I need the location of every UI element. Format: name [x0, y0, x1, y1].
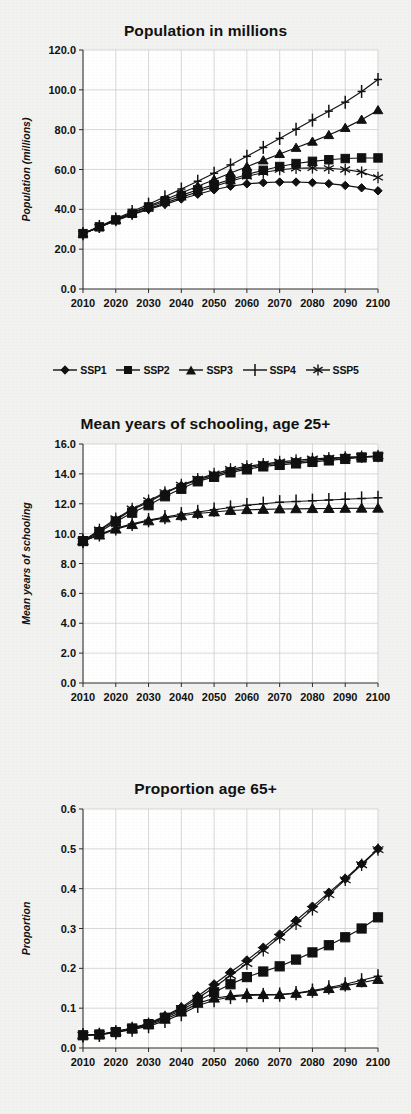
square-marker [242, 972, 251, 981]
chart-title-population: Population in millions [0, 22, 411, 40]
x-axis-tick-label: 2060 [235, 691, 259, 703]
y-axis-tick-label: 6.0 [61, 587, 76, 599]
square-marker [341, 933, 350, 942]
y-axis-title: Population (millions) [20, 117, 32, 221]
y-axis-tick-label: 0.4 [61, 883, 77, 895]
triangle-marker-icon [178, 363, 204, 377]
x-axis-tick-label: 2100 [366, 1056, 390, 1068]
square-marker-icon [115, 363, 141, 377]
y-axis-tick-label: 0.1 [61, 1002, 76, 1014]
x-axis-tick-label: 2050 [202, 297, 226, 309]
x-axis-tick-label: 2100 [366, 691, 390, 703]
x-axis-tick-label: 2040 [169, 297, 193, 309]
y-axis-tick-label: 8.0 [61, 558, 76, 570]
legend-item-ssp2[interactable]: SSP2 [115, 363, 169, 377]
y-axis-tick-label: 0.0 [61, 1042, 76, 1054]
square-marker [357, 154, 365, 162]
asterisk-marker-icon [305, 363, 331, 377]
x-axis-tick-label: 2030 [136, 297, 160, 309]
square-marker [275, 962, 284, 971]
y-axis-tick-label: 0.6 [61, 803, 76, 815]
x-axis-tick-label: 2020 [104, 691, 128, 703]
x-axis-tick-label: 2100 [366, 297, 390, 309]
x-axis-tick-label: 2010 [71, 691, 95, 703]
y-axis-tick-label: 120.0 [48, 44, 76, 56]
square-marker [357, 924, 366, 933]
x-axis-tick-label: 2050 [202, 1056, 226, 1068]
chart-title-schooling: Mean years of schooling, age 25+ [0, 415, 411, 433]
population-chart-svg: 0.020.040.060.080.0100.0120.020102020203… [0, 42, 411, 347]
y-axis-tick-label: 0.0 [61, 283, 76, 295]
x-axis-tick-label: 2030 [136, 1056, 160, 1068]
x-axis-tick-label: 2080 [300, 297, 324, 309]
x-axis-tick-label: 2010 [71, 1056, 95, 1068]
chart-panel-schooling: Mean years of schooling, age 25+ 0.02.04… [0, 392, 411, 752]
x-axis-tick-label: 2040 [169, 1056, 193, 1068]
legend-label-ssp3: SSP3 [206, 364, 232, 376]
y-axis-tick-label: 100.0 [48, 84, 76, 96]
legend-label-ssp4: SSP4 [270, 364, 296, 376]
x-axis-tick-label: 2090 [333, 297, 357, 309]
plus-marker-icon [242, 363, 268, 377]
square-marker [374, 154, 382, 162]
legend-label-ssp5: SSP5 [333, 364, 359, 376]
plot-area-schooling: 0.02.04.06.08.010.012.014.016.0201020202… [0, 436, 411, 741]
y-axis-tick-label: 16.0 [55, 438, 76, 450]
y-axis-tick-label: 80.0 [55, 124, 76, 136]
legend-item-ssp3[interactable]: SSP3 [178, 363, 232, 377]
square-marker [308, 948, 317, 957]
x-axis-tick-label: 2060 [235, 1056, 259, 1068]
y-axis-tick-label: 0.2 [61, 962, 76, 974]
square-marker [291, 955, 300, 964]
y-axis-tick-label: 0.5 [61, 843, 76, 855]
square-marker [341, 154, 349, 162]
legend-label-ssp2: SSP2 [143, 364, 169, 376]
y-axis-title: Mean years of schooling [20, 502, 32, 625]
x-axis-tick-label: 2020 [104, 297, 128, 309]
x-axis-tick-label: 2080 [300, 691, 324, 703]
y-axis-tick-label: 40.0 [55, 203, 76, 215]
chart-panel-population: Population in millions 0.020.040.060.080… [0, 0, 411, 392]
square-marker [259, 967, 268, 976]
x-axis-tick-label: 2030 [136, 691, 160, 703]
x-axis-tick-label: 2020 [104, 1056, 128, 1068]
chart-legend: SSP1 SSP2 SSP3 SSP4 SSP5 [0, 360, 411, 380]
x-axis-tick-label: 2040 [169, 691, 193, 703]
legend-item-ssp5[interactable]: SSP5 [305, 363, 359, 377]
diamond-marker-icon [52, 363, 78, 377]
y-axis-tick-label: 2.0 [61, 647, 76, 659]
y-axis-tick-label: 0.3 [61, 923, 76, 935]
x-axis-tick-label: 2070 [267, 297, 291, 309]
proportion-chart-svg: 0.00.10.20.30.40.50.62010202020302040205… [0, 801, 411, 1106]
y-axis-tick-label: 20.0 [55, 243, 76, 255]
y-axis-tick-label: 4.0 [61, 617, 76, 629]
square-marker [373, 913, 382, 922]
y-axis-tick-label: 12.0 [55, 498, 76, 510]
chart-title-proportion: Proportion age 65+ [0, 780, 411, 798]
x-axis-tick-label: 2060 [235, 297, 259, 309]
legend-label-ssp1: SSP1 [80, 364, 106, 376]
x-axis-tick-label: 2090 [333, 691, 357, 703]
legend-item-ssp1[interactable]: SSP1 [52, 363, 106, 377]
x-axis-tick-label: 2050 [202, 691, 226, 703]
x-axis-tick-label: 2010 [71, 297, 95, 309]
legend-item-ssp4[interactable]: SSP4 [242, 363, 296, 377]
square-marker [324, 941, 333, 950]
schooling-chart-svg: 0.02.04.06.08.010.012.014.016.0201020202… [0, 436, 411, 741]
y-axis-tick-label: 60.0 [55, 164, 76, 176]
y-axis-tick-label: 10.0 [55, 528, 76, 540]
plot-area-population: 0.020.040.060.080.0100.0120.020102020203… [0, 42, 411, 347]
y-axis-tick-label: 0.0 [61, 677, 76, 689]
x-axis-tick-label: 2070 [267, 1056, 291, 1068]
y-axis-title: Proportion [20, 902, 32, 956]
x-axis-tick-label: 2070 [267, 691, 291, 703]
y-axis-tick-label: 14.0 [55, 468, 76, 480]
x-axis-tick-label: 2080 [300, 1056, 324, 1068]
chart-panel-proportion: Proportion age 65+ 0.00.10.20.30.40.50.6… [0, 752, 411, 1114]
x-axis-tick-label: 2090 [333, 1056, 357, 1068]
plot-area-proportion: 0.00.10.20.30.40.50.62010202020302040205… [0, 801, 411, 1106]
